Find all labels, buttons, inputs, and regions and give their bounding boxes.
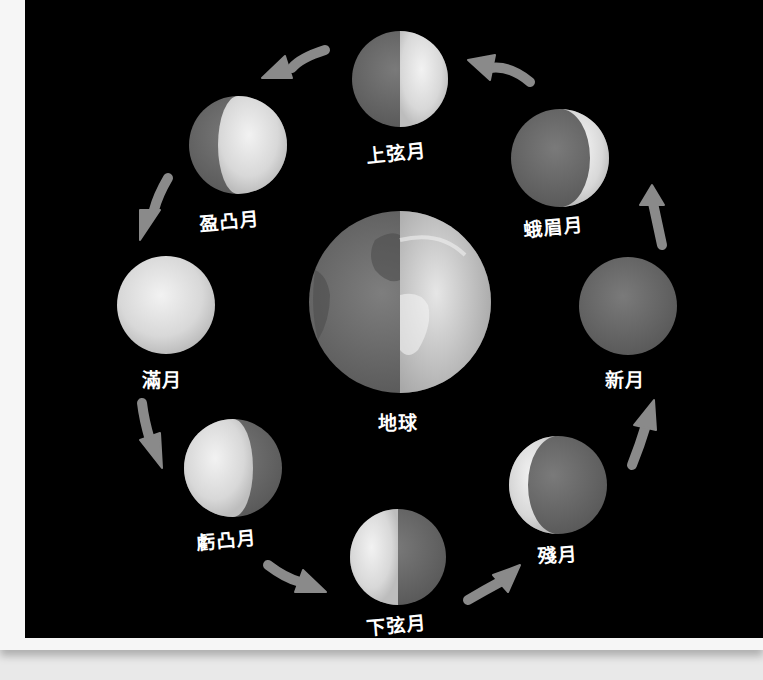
arrow-new-to-crescent-icon [640, 185, 664, 245]
arrow-waning-gibbous-to-last-quarter-icon [268, 565, 326, 592]
label-new-moon: 新月 [605, 365, 645, 392]
label-full-moon: 滿月 [142, 365, 182, 392]
moon-waning-gibbous [184, 419, 282, 517]
label-last-quarter: 下弦月 [365, 607, 427, 639]
moon-new [579, 257, 677, 355]
moon-waning-crescent [509, 436, 607, 534]
label-waning-gibbous: 虧凸月 [195, 522, 257, 554]
moon-waxing-crescent [511, 109, 609, 207]
moon-full [117, 256, 215, 354]
label-waxing-crescent: 蛾眉月 [522, 209, 584, 241]
arrow-first-quarter-to-waxing-gibbous-icon [262, 50, 325, 78]
arrow-crescent-to-first-quarter-icon [468, 55, 530, 82]
arrow-waxing-gibbous-to-full-icon [140, 178, 168, 240]
earth-globe [309, 211, 491, 393]
arrow-full-to-waning-gibbous-icon [140, 403, 162, 468]
label-waning-crescent: 殘月 [536, 539, 578, 569]
arrow-last-quarter-to-waning-crescent-icon [468, 565, 520, 600]
moon-last-quarter [350, 509, 446, 605]
moon-waxing-gibbous [189, 96, 287, 194]
moon-first-quarter [352, 31, 448, 127]
arrow-waning-crescent-to-new-icon [632, 400, 656, 465]
moon-phase-diagram [0, 0, 763, 680]
label-waxing-gibbous: 盈凸月 [198, 203, 260, 235]
label-earth: 地球 [378, 408, 418, 435]
